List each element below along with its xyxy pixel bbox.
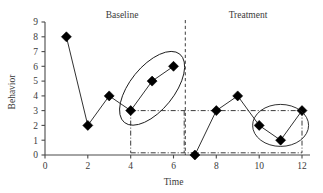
y-tick-label-4: 4 bbox=[33, 91, 38, 101]
chart-canvas: 0 1 2 3 4 5 6 7 8 9 Behavior bbox=[0, 0, 323, 193]
y-tick-label-5: 5 bbox=[33, 76, 38, 86]
x-tick-label-2: 2 bbox=[85, 161, 90, 171]
y-tick-label-1: 1 bbox=[33, 136, 38, 146]
y-axis-group: 0 1 2 3 4 5 6 7 8 9 Behavior bbox=[7, 17, 45, 160]
baseline-trend-ellipse bbox=[107, 40, 197, 136]
trend-ellipses-group bbox=[107, 40, 308, 146]
y-tick-label-0: 0 bbox=[33, 150, 38, 160]
phase-label-baseline: Baseline bbox=[106, 10, 139, 20]
phase-labels-group: Baseline Treatment bbox=[106, 10, 268, 20]
data-point-marker bbox=[104, 91, 114, 101]
x-axis-title: Time bbox=[164, 177, 184, 187]
data-point-marker bbox=[126, 106, 136, 116]
x-tick-label-6: 6 bbox=[171, 161, 176, 171]
data-point-marker bbox=[276, 135, 286, 145]
treatment-series-group bbox=[190, 91, 307, 160]
data-point-marker bbox=[297, 106, 307, 116]
y-tick-label-8: 8 bbox=[33, 32, 38, 42]
x-axis-tick-labels: 0 2 4 6 8 10 12 bbox=[43, 161, 307, 171]
data-point-marker bbox=[61, 32, 71, 42]
x-tick-label-4: 4 bbox=[128, 161, 133, 171]
data-point-marker bbox=[254, 120, 264, 130]
y-axis-title: Behavior bbox=[7, 74, 17, 110]
x-tick-label-0: 0 bbox=[43, 161, 48, 171]
x-tick-label-8: 8 bbox=[214, 161, 219, 171]
y-axis-tick-labels: 0 1 2 3 4 5 6 7 8 9 bbox=[33, 17, 38, 160]
data-point-marker bbox=[211, 106, 221, 116]
phase-label-treatment: Treatment bbox=[229, 10, 268, 20]
data-point-marker bbox=[147, 76, 157, 86]
y-tick-label-9: 9 bbox=[33, 17, 38, 27]
data-point-marker bbox=[190, 150, 200, 160]
y-tick-label-6: 6 bbox=[33, 62, 38, 72]
x-tick-label-10: 10 bbox=[254, 161, 264, 171]
x-axis-group: 0 2 4 6 8 10 12 Time bbox=[43, 155, 310, 187]
data-point-marker bbox=[169, 61, 179, 71]
y-tick-label-7: 7 bbox=[33, 47, 38, 57]
data-point-marker bbox=[83, 120, 93, 130]
y-tick-label-3: 3 bbox=[33, 106, 38, 116]
behavior-time-chart: 0 1 2 3 4 5 6 7 8 9 Behavior bbox=[0, 0, 323, 193]
data-point-marker bbox=[233, 91, 243, 101]
y-tick-label-2: 2 bbox=[33, 121, 38, 131]
x-tick-label-12: 12 bbox=[297, 161, 307, 171]
